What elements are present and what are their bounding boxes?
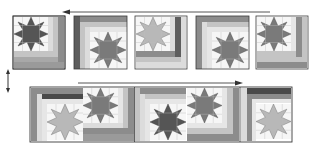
top-block-2 [74, 16, 127, 69]
top-block-1 [13, 16, 65, 69]
bottom-block-3 [135, 88, 186, 141]
bottom-block-4 [187, 88, 239, 141]
bottom-block-5 [241, 88, 291, 141]
quilt-assembly-svg [0, 0, 313, 150]
top-row-direction-arrow [62, 10, 270, 15]
top-block-5 [256, 16, 308, 69]
top-block-4 [196, 16, 249, 69]
quilt-diagram [0, 0, 313, 150]
row-flip-arrow [6, 69, 10, 93]
top-block-3 [135, 16, 187, 69]
bottom-row-strip [30, 87, 292, 142]
bottom-block-2 [83, 88, 134, 141]
bottom-block-1 [31, 88, 83, 141]
bottom-row-direction-arrow [78, 81, 243, 86]
